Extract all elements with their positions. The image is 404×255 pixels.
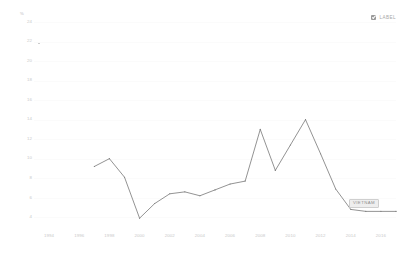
line-chart: % 2422201816141210864 199419961998200020…	[0, 0, 404, 255]
data-point-marker	[214, 189, 215, 190]
data-point-marker	[350, 209, 351, 210]
data-point-marker	[395, 211, 396, 212]
legend-label: LABEL	[379, 15, 396, 20]
data-point-marker	[154, 203, 155, 204]
data-point-marker	[380, 211, 381, 212]
checkbox-checked-icon[interactable]	[371, 15, 376, 20]
data-point-marker	[124, 177, 125, 178]
data-point-marker	[275, 170, 276, 171]
legend[interactable]: LABEL	[371, 12, 396, 22]
data-point-marker	[139, 218, 140, 219]
data-point-marker	[320, 153, 321, 154]
data-point-marker	[365, 211, 366, 212]
data-point-marker	[335, 188, 336, 189]
data-point-marker	[230, 184, 231, 185]
data-point-marker	[245, 181, 246, 182]
data-point-marker	[109, 158, 110, 159]
data-point-marker	[199, 195, 200, 196]
data-point-marker	[94, 166, 95, 167]
data-point-marker	[290, 144, 291, 145]
data-point-marker	[305, 119, 306, 120]
data-point-marker	[260, 129, 261, 130]
series-label-vietnam[interactable]: VIETNAM	[349, 199, 379, 208]
plot-area	[0, 0, 404, 255]
data-point-marker	[184, 191, 185, 192]
data-point-marker	[169, 193, 170, 194]
